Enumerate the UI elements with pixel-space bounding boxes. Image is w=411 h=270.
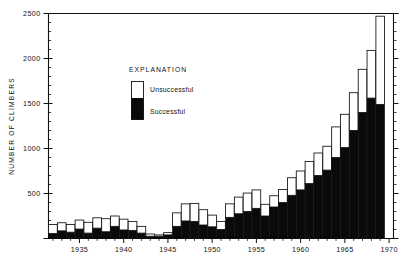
legend-swatch-unsuccessful: [132, 82, 144, 99]
bar-successful-1948: [190, 221, 199, 238]
bar-unsuccessful-1954: [243, 193, 252, 211]
bar-successful-1967: [358, 113, 367, 239]
bar-successful-1957: [270, 207, 279, 239]
bar-successful-1969: [376, 104, 385, 238]
bar-unsuccessful-1952: [226, 204, 235, 218]
bar-successful-1956: [261, 216, 270, 239]
x-tick-label-1955: 1955: [248, 245, 265, 254]
chart-svg: 5001000150020002500 19351940194519501955…: [0, 0, 411, 270]
bar-unsuccessful-1968: [367, 50, 376, 98]
bar-unsuccessful-1934: [66, 225, 75, 233]
legend-swatch-successful: [132, 99, 144, 120]
bar-successful-1966: [349, 131, 358, 239]
bar-successful-1959: [287, 195, 296, 238]
bar-unsuccessful-1960: [296, 171, 305, 190]
bar-unsuccessful-1961: [305, 162, 314, 184]
y-axis-title-text: NUMBER OF CLIMBERS: [8, 77, 15, 175]
bar-unsuccessful-1959: [287, 178, 296, 196]
bar-unsuccessful-1958: [279, 189, 288, 202]
bar-successful-1962: [314, 176, 323, 239]
bar-unsuccessful-1967: [358, 69, 367, 112]
bar-successful-1942: [137, 233, 146, 238]
bar-successful-1953: [234, 214, 243, 239]
bar-successful-1958: [279, 203, 288, 239]
bar-successful-1936: [84, 233, 93, 238]
bar-successful-1965: [341, 148, 350, 239]
bar-unsuccessful-1956: [261, 204, 270, 216]
bar-successful-1952: [226, 217, 235, 238]
x-tick-label-1935: 1935: [71, 245, 88, 254]
bar-unsuccessful-1957: [270, 196, 279, 207]
bar-successful-1934: [66, 232, 75, 238]
bar-unsuccessful-1963: [323, 146, 332, 170]
x-tick-label-1970: 1970: [380, 245, 397, 254]
bar-successful-1955: [252, 208, 261, 238]
bar-successful-1932: [49, 234, 58, 239]
bar-unsuccessful-1962: [314, 153, 323, 176]
bar-unsuccessful-1946: [172, 213, 181, 227]
bar-unsuccessful-1950: [208, 215, 217, 227]
bar-successful-1954: [243, 212, 252, 239]
y-tick-label-1500: 1500: [23, 99, 40, 108]
legend-label-unsuccessful: Unsuccessful: [150, 86, 194, 93]
bar-successful-1963: [323, 170, 332, 238]
bar-successful-1945: [164, 235, 173, 239]
y-axis-right-ticks: [394, 14, 399, 230]
bar-unsuccessful-1964: [332, 127, 341, 158]
bar-unsuccessful-1940: [119, 219, 128, 230]
bar-unsuccessful-1936: [84, 222, 93, 233]
bar-successful-1937: [93, 228, 102, 238]
bar-unsuccessful-1953: [234, 197, 243, 214]
bar-successful-1947: [181, 221, 190, 239]
x-tick-label-1945: 1945: [159, 245, 176, 254]
bar-unsuccessful-1945: [164, 233, 173, 235]
legend: EXPLANATION Unsuccessful Successful: [129, 66, 194, 120]
bar-successful-1940: [119, 230, 128, 239]
bar-unsuccessful-1951: [217, 221, 226, 229]
bar-unsuccessful-1944: [155, 235, 164, 236]
bar-unsuccessful-1947: [181, 204, 190, 221]
x-tick-label-1940: 1940: [115, 245, 132, 254]
bar-successful-1960: [296, 190, 305, 239]
y-tick-label-500: 500: [27, 189, 40, 198]
bar-successful-1949: [199, 225, 208, 239]
legend-label-successful: Successful: [150, 108, 186, 115]
bar-successful-1964: [332, 158, 341, 239]
bar-successful-1961: [305, 184, 314, 239]
bar-unsuccessful-1941: [128, 221, 137, 230]
bar-unsuccessful-1942: [137, 226, 146, 233]
y-tick-label-2500: 2500: [23, 9, 40, 18]
bar-successful-1950: [208, 227, 217, 239]
bar-successful-1938: [102, 232, 111, 239]
bar-unsuccessful-1969: [376, 16, 385, 104]
y-tick-label-1000: 1000: [23, 144, 40, 153]
bar-unsuccessful-1948: [190, 203, 199, 221]
bar-successful-1935: [75, 229, 84, 238]
legend-title: EXPLANATION: [129, 66, 187, 73]
bar-successful-1946: [172, 226, 181, 238]
bar-unsuccessful-1935: [75, 220, 84, 229]
x-tick-label-1950: 1950: [203, 245, 220, 254]
bar-successful-1951: [217, 230, 226, 239]
bar-unsuccessful-1943: [146, 234, 155, 236]
bar-unsuccessful-1939: [111, 216, 120, 226]
x-axis: 19351940194519501955196019651970: [53, 239, 398, 254]
x-tick-label-1965: 1965: [336, 245, 353, 254]
bar-unsuccessful-1938: [102, 219, 111, 232]
bar-unsuccessful-1932: [49, 225, 58, 234]
y-tick-label-2000: 2000: [23, 54, 40, 63]
bar-unsuccessful-1955: [252, 190, 261, 208]
bar-unsuccessful-1949: [199, 210, 208, 225]
bar-successful-1941: [128, 230, 137, 238]
x-tick-label-1960: 1960: [292, 245, 309, 254]
bar-successful-1933: [57, 231, 66, 239]
bar-unsuccessful-1937: [93, 218, 102, 228]
bars: [49, 16, 385, 238]
bar-successful-1968: [367, 98, 376, 238]
climbers-bar-chart-figure: 5001000150020002500 19351940194519501955…: [0, 0, 411, 270]
bar-unsuccessful-1965: [341, 114, 350, 147]
bar-unsuccessful-1966: [349, 93, 358, 131]
bar-successful-1939: [111, 226, 120, 238]
y-axis-title: NUMBER OF CLIMBERS: [8, 77, 15, 175]
bar-unsuccessful-1933: [57, 223, 66, 231]
